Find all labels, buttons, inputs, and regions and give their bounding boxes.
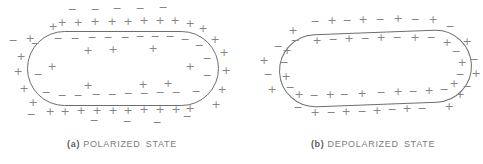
plus-charge-symbol: + [357, 88, 366, 99]
caption-label-b: (b) [311, 139, 325, 149]
plus-charge-symbol: + [457, 57, 466, 68]
minus-charge-symbol: − [357, 106, 366, 117]
plus-charge-symbol: + [327, 15, 336, 26]
caption-text-depolarized: DEPOLARIZED STATE [328, 139, 436, 149]
plus-charge-symbol: + [402, 103, 411, 114]
minus-charge-symbol: − [417, 103, 426, 114]
plus-charge-symbol: + [393, 13, 402, 24]
plus-charge-symbol: + [294, 89, 303, 100]
minus-charge-symbol: − [285, 82, 294, 93]
plus-charge-symbol: + [312, 35, 321, 46]
plus-charge-symbol: + [372, 105, 381, 116]
minus-charge-symbol: − [426, 32, 435, 43]
minus-charge-symbol: − [408, 86, 417, 97]
plus-charge-symbol: + [462, 36, 471, 47]
plus-charge-symbol: + [471, 68, 480, 79]
plus-charge-symbol: + [358, 14, 367, 25]
minus-charge-symbol: − [328, 34, 337, 45]
minus-charge-symbol: − [309, 90, 318, 101]
plus-charge-symbol: + [282, 45, 291, 56]
minus-charge-symbol: − [279, 57, 288, 68]
minus-charge-symbol: − [326, 107, 335, 118]
membrane-states-diagram: −−−−−−−−−−−+++++++++++++++++++++++++++++… [0, 0, 483, 164]
minus-charge-symbol: − [469, 54, 478, 65]
plus-charge-symbol: + [325, 89, 334, 100]
plus-charge-symbol: + [310, 107, 319, 118]
plus-charge-symbol: + [259, 55, 268, 66]
minus-charge-symbol: − [342, 15, 351, 26]
minus-charge-symbol: − [439, 84, 448, 95]
minus-charge-symbol: − [263, 69, 272, 80]
plus-charge-symbol: + [444, 101, 453, 112]
plus-charge-symbol: + [267, 84, 276, 95]
minus-charge-symbol: − [410, 14, 419, 25]
minus-charge-symbol: − [392, 32, 401, 43]
minus-charge-symbol: − [290, 35, 299, 46]
minus-charge-symbol: − [387, 104, 396, 115]
minus-charge-symbol: − [360, 33, 369, 44]
plus-charge-symbol: + [410, 32, 419, 43]
minus-charge-symbol: − [273, 41, 282, 52]
minus-charge-symbol: − [376, 87, 385, 98]
plus-charge-symbol: + [341, 106, 350, 117]
minus-charge-symbol: − [339, 89, 348, 100]
minus-charge-symbol: − [310, 16, 319, 27]
plus-charge-symbol: + [442, 37, 451, 48]
plus-charge-symbol: + [428, 14, 437, 25]
plus-charge-symbol: + [424, 85, 433, 96]
minus-charge-symbol: − [375, 14, 384, 25]
plus-charge-symbol: + [393, 86, 402, 97]
minus-charge-symbol: − [293, 102, 302, 113]
depolarized-state-figure: +−+−+−+−+−+−+−+−+−+−+−+−+−+−+−+−+−+−+−+−… [0, 0, 483, 164]
plus-charge-symbol: + [449, 78, 458, 89]
caption-depolarized: (b)DEPOLARIZED STATE [311, 139, 435, 149]
plus-charge-symbol: + [376, 32, 385, 43]
minus-charge-symbol: − [445, 21, 454, 32]
plus-charge-symbol: + [455, 89, 464, 100]
plus-charge-symbol: + [344, 33, 353, 44]
